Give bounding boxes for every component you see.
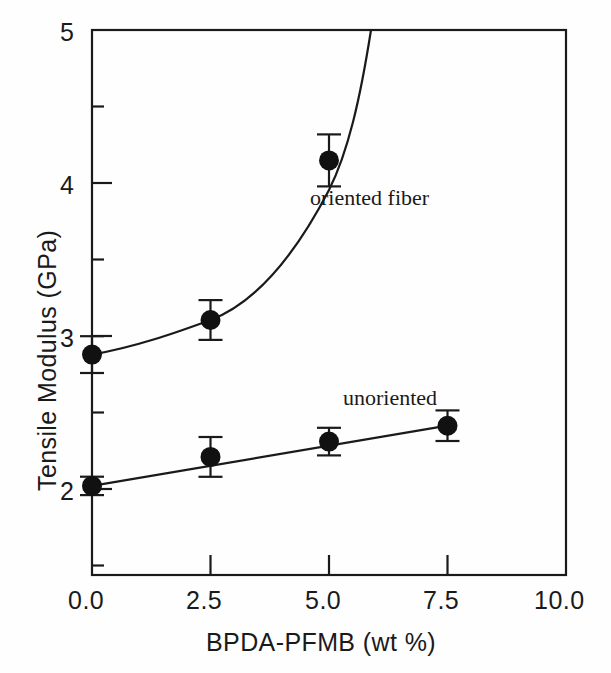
y-tick-label-4: 4 xyxy=(60,171,74,200)
data-point-unoriented-1 xyxy=(201,447,221,467)
x-tick-label-7p5: 7.5 xyxy=(423,586,459,615)
data-point-oriented-0 xyxy=(82,345,102,365)
unoriented-error-bars xyxy=(80,410,460,495)
data-point-oriented-1 xyxy=(201,310,221,330)
x-tick-label-10p0: 10.0 xyxy=(534,586,585,615)
plot-canvas xyxy=(0,0,611,673)
annotation-unoriented: unoriented xyxy=(343,385,437,411)
unoriented-trend-line xyxy=(92,426,448,486)
x-major-ticks xyxy=(211,555,448,575)
y-tick-label-2: 2 xyxy=(60,477,74,506)
x-tick-label-0: 0.0 xyxy=(68,586,104,615)
data-point-unoriented-3 xyxy=(438,416,458,436)
data-point-unoriented-0 xyxy=(82,476,102,496)
x-tick-label-2p5: 2.5 xyxy=(186,586,222,615)
plot-border xyxy=(92,30,566,575)
data-point-unoriented-2 xyxy=(319,432,339,452)
annotation-oriented-fiber: oriented fiber xyxy=(310,185,429,211)
y-axis-title: Tensile Modulus (GPa) xyxy=(33,230,62,491)
series-oriented-fiber xyxy=(80,30,371,454)
axis-frame xyxy=(92,30,566,575)
oriented-fiber-error-bars xyxy=(80,134,341,373)
data-point-oriented-2 xyxy=(319,150,339,170)
y-tick-label-5: 5 xyxy=(60,18,74,47)
series-unoriented xyxy=(80,410,460,496)
x-tick-label-5p0: 5.0 xyxy=(305,586,341,615)
y-tick-label-3: 3 xyxy=(60,324,74,353)
chart-figure: 5 4 3 2 0.0 2.5 5.0 7.5 10.0 Tensile Mod… xyxy=(0,0,611,673)
x-axis-title: BPDA-PFMB (wt %) xyxy=(206,628,436,657)
